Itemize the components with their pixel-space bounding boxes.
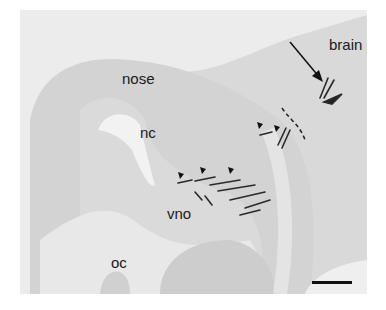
label-brain: brain xyxy=(329,37,362,52)
micrograph: nose nc vno oc brain xyxy=(20,10,367,294)
scale-bar xyxy=(312,281,352,284)
label-vno: vno xyxy=(167,206,191,221)
label-oc: oc xyxy=(111,255,127,270)
tissue-section xyxy=(20,10,367,294)
label-nose: nose xyxy=(122,71,155,86)
label-nc: nc xyxy=(140,125,156,140)
